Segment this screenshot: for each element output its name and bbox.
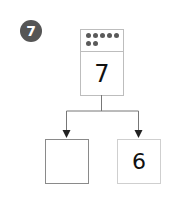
part-box-right: 6: [117, 139, 161, 184]
part-box-left[interactable]: [45, 139, 89, 184]
arrow-down-icon: [63, 130, 71, 138]
arrow-down-icon: [135, 130, 143, 138]
